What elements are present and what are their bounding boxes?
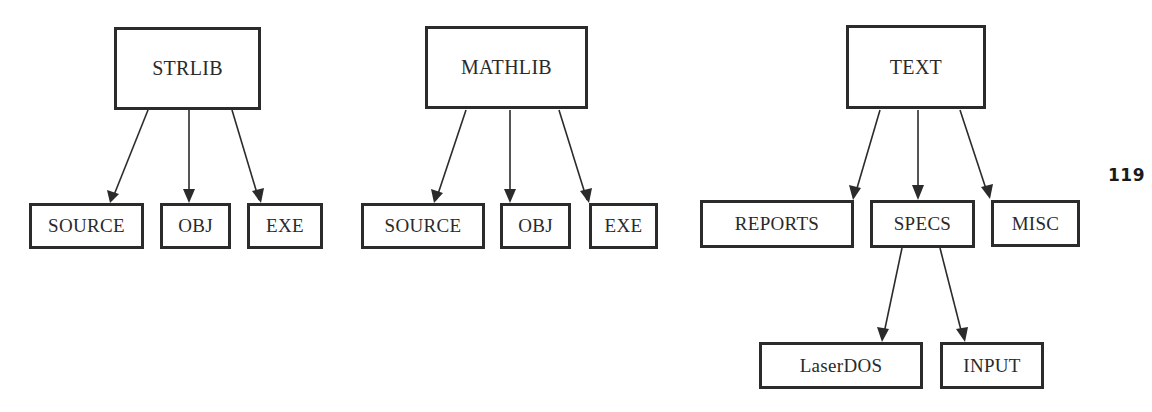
edge-text-reports xyxy=(849,110,880,200)
node-label: MATHLIB xyxy=(461,56,552,79)
edge-strlib-obj xyxy=(183,110,195,203)
node-label: REPORTS xyxy=(735,213,819,235)
page-number: 119 xyxy=(1108,165,1145,185)
edge-specs-input xyxy=(940,248,968,342)
node-text-misc: MISC xyxy=(991,200,1080,247)
node-label: OBJ xyxy=(178,215,213,237)
node-text-reports: REPORTS xyxy=(700,200,854,248)
node-strlib: STRLIB xyxy=(114,27,261,110)
node-label: SPECS xyxy=(894,213,951,235)
node-strlib-source: SOURCE xyxy=(29,203,144,249)
node-specs-laserdos: LaserDOS xyxy=(759,342,923,389)
node-label: STRLIB xyxy=(152,57,223,80)
node-label: MISC xyxy=(1012,213,1060,235)
edge-strlib-exe xyxy=(232,110,264,203)
node-label: EXE xyxy=(605,215,643,237)
node-specs-input: INPUT xyxy=(940,342,1044,389)
node-mathlib-source: SOURCE xyxy=(361,203,485,249)
node-label: TEXT xyxy=(890,56,942,79)
node-label: EXE xyxy=(266,215,304,237)
edge-strlib-source xyxy=(107,110,148,203)
node-mathlib-obj: OBJ xyxy=(500,203,571,249)
node-label: INPUT xyxy=(963,355,1020,377)
node-text-specs: SPECS xyxy=(870,200,975,248)
node-text: TEXT xyxy=(846,25,986,109)
node-label: SOURCE xyxy=(48,215,125,237)
edge-text-specs xyxy=(912,110,924,200)
node-label: LaserDOS xyxy=(800,355,883,377)
node-label: OBJ xyxy=(518,215,553,237)
node-strlib-exe: EXE xyxy=(247,203,323,249)
edge-mathlib-obj xyxy=(504,110,516,203)
node-mathlib-exe: EXE xyxy=(589,203,658,249)
node-strlib-obj: OBJ xyxy=(160,203,231,249)
node-mathlib: MATHLIB xyxy=(425,26,588,109)
edge-mathlib-source xyxy=(431,110,466,203)
edge-mathlib-exe xyxy=(559,110,592,203)
edge-specs-laserdos xyxy=(877,248,902,342)
edge-text-misc xyxy=(960,110,993,199)
node-label: SOURCE xyxy=(385,215,462,237)
